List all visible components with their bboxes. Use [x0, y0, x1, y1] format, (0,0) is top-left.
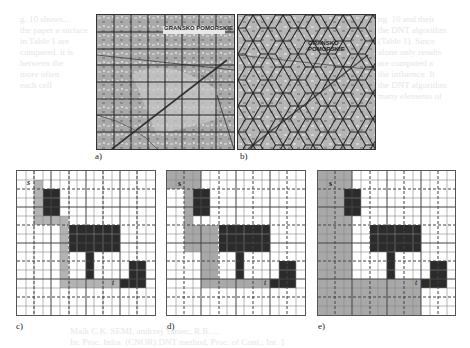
map-square-grid: GRANSKO POMORSKIE — [96, 14, 235, 150]
start-marker: s — [329, 179, 332, 188]
ghost-line: between the — [20, 58, 96, 69]
caption-d: d) — [167, 321, 175, 331]
start-marker: s — [178, 179, 181, 188]
target-marker: t — [415, 278, 417, 287]
path-grid-e-graphic — [318, 171, 455, 315]
ghost-line: the influence. It — [378, 69, 470, 80]
target-marker: t — [112, 278, 114, 287]
ghost-line: many elements of — [378, 91, 470, 102]
map-label: GRANSKO POMORSKIE — [164, 25, 233, 31]
ghost-line: (Table 1). Since — [378, 36, 470, 47]
start-marker: s — [27, 178, 30, 187]
ghost-line: In: Proc. Infra. (CNOR) DNT method, Proc… — [70, 337, 450, 348]
ghost-text-right: ng. 10 and their the DNT algorithm (Tabl… — [378, 14, 470, 102]
ghost-line: in Table 1 are — [20, 36, 96, 47]
ghost-line: the paper a surface — [20, 25, 96, 36]
ghost-line: each cell — [20, 80, 96, 91]
ghost-line: are computed a — [378, 58, 470, 69]
path-grid-e: s t — [317, 170, 456, 316]
map-label-hex: GRANSKO POMORSKIE — [308, 40, 375, 52]
ghost-line: compared. it is — [20, 47, 96, 58]
ghost-text-left: g. 10 shows... the paper a surface in Ta… — [20, 14, 96, 91]
caption-c: c) — [16, 321, 23, 331]
ghost-line: g. 10 shows... — [20, 14, 96, 25]
ghost-line: ng. 10 and their — [378, 14, 470, 25]
map-hex-grid-graphic — [238, 15, 375, 149]
ghost-line: alone only results — [378, 47, 470, 58]
path-grid-c: s t — [16, 170, 156, 316]
ghost-line: the DNT algorithm — [378, 25, 470, 36]
target-marker: t — [264, 278, 266, 287]
path-grid-c-graphic — [17, 171, 155, 315]
caption-b: b) — [240, 151, 248, 161]
map-square-grid-graphic — [97, 15, 234, 149]
path-grid-d: s t — [166, 170, 306, 316]
ghost-line: Maik C.K. SEMI, andrzej Yaniec, R.B. ... — [70, 326, 450, 337]
ghost-line: more often — [20, 69, 96, 80]
ghost-line: the DNT algorithm — [378, 80, 470, 91]
caption-e: e) — [318, 321, 325, 331]
ghost-text-bottom: Maik C.K. SEMI, andrzej Yaniec, R.B. ...… — [70, 326, 450, 348]
map-hex-grid: GRANSKO POMORSKIE — [237, 14, 376, 150]
caption-a: a) — [95, 151, 102, 161]
path-grid-d-graphic — [167, 171, 305, 315]
